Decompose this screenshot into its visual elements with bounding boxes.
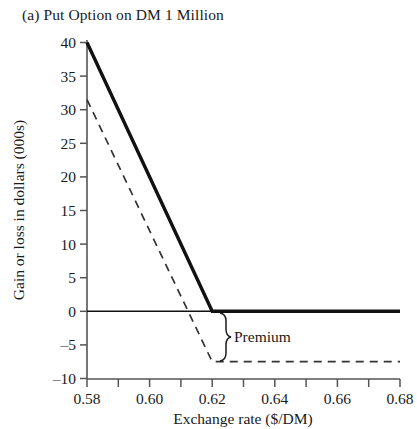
y-tick-label: 5 bbox=[68, 269, 76, 286]
x-tick-label: 0.62 bbox=[199, 390, 226, 407]
y-tick-label: 20 bbox=[61, 168, 77, 185]
y-tick-label: 10 bbox=[61, 236, 77, 253]
chart-plot: 40 35 30 25 20 15 10 5 0 –5 –10 bbox=[0, 0, 417, 429]
y-tick-label: 15 bbox=[61, 202, 77, 219]
y-tick-label: 25 bbox=[61, 135, 77, 152]
y-tick-label: 35 bbox=[61, 68, 77, 85]
x-tick-label: 0.58 bbox=[73, 390, 100, 407]
x-axis-tick-labels: 0.58 0.60 0.62 0.64 0.66 0.68 bbox=[73, 390, 413, 407]
premium-annotation-label: Premium bbox=[234, 328, 291, 345]
figure-container: (a) Put Option on DM 1 Million 40 35 30 … bbox=[0, 0, 417, 429]
x-tick-label: 0.66 bbox=[324, 390, 351, 407]
x-tick-label: 0.68 bbox=[386, 390, 413, 407]
y-tick-label: –10 bbox=[52, 370, 77, 387]
x-tick-label: 0.60 bbox=[136, 390, 163, 407]
series-net-profit-dashed bbox=[87, 100, 400, 362]
x-axis-title: Exchange rate ($/DM) bbox=[173, 410, 312, 428]
series-gross-payoff-solid bbox=[87, 43, 400, 312]
y-axis-tick-labels: 40 35 30 25 20 15 10 5 0 –5 –10 bbox=[52, 34, 77, 387]
y-axis-title: Gain or loss in dollars (000s) bbox=[10, 120, 28, 300]
x-tick-label: 0.64 bbox=[261, 390, 288, 407]
y-tick-label: 40 bbox=[61, 34, 77, 51]
x-axis-ticks bbox=[87, 379, 400, 387]
y-tick-label: –5 bbox=[60, 336, 77, 353]
premium-brace-icon bbox=[220, 313, 231, 361]
y-axis-ticks bbox=[80, 43, 87, 379]
y-tick-label: 30 bbox=[61, 101, 77, 118]
y-tick-label: 0 bbox=[68, 303, 76, 320]
